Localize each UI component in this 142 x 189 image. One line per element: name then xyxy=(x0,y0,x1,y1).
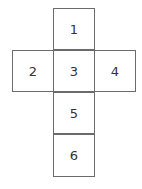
face-3: 3 xyxy=(53,50,95,92)
face-1: 1 xyxy=(53,8,95,50)
face-2: 2 xyxy=(12,50,54,92)
face-4: 4 xyxy=(94,50,136,92)
face-5: 5 xyxy=(53,92,95,134)
face-6: 6 xyxy=(53,134,95,177)
